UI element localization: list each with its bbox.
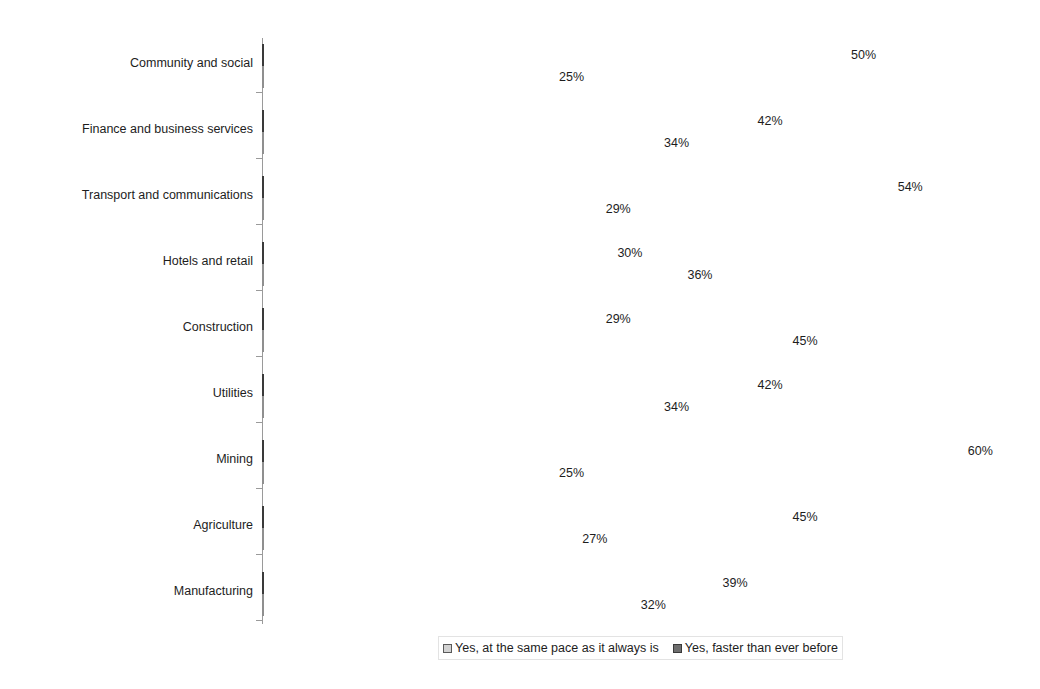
bar-value-label: 42% [758,377,783,393]
bar-value-label: 29% [606,201,631,217]
category-label: Mining [0,452,253,467]
category-label: Agriculture [0,518,253,533]
bar-rect [262,396,264,418]
bar-value-label: 25% [559,465,584,481]
bar-group: Community and social50%25% [0,44,1040,90]
bar-value-label: 27% [582,531,607,547]
bar-rect [262,594,264,616]
axis-tick [256,356,262,357]
category-label: Utilities [0,386,253,401]
bar-rect [262,242,264,264]
chart-legend: Yes, at the same pace as it always is Ye… [438,636,843,660]
bar-group: Construction29%45% [0,308,1040,354]
bar-light: 25% [262,462,554,484]
category-label: Finance and business services [0,122,253,137]
bar-group: Agriculture45%27% [0,506,1040,552]
legend-item-same-pace: Yes, at the same pace as it always is [443,640,659,656]
bar-rect [262,572,264,594]
bar-rect [262,528,264,550]
axis-tick [256,554,262,555]
bar-dark: 42% [262,374,753,396]
bar-dark: 54% [262,176,893,198]
category-label: Construction [0,320,253,335]
bar-value-label: 30% [617,245,642,261]
bar-rect [262,66,264,88]
bar-dark: 39% [262,572,718,594]
axis-tick [256,158,262,159]
bar-dark: 42% [262,110,753,132]
bar-rect [262,264,264,286]
bar-light: 36% [262,264,682,286]
bar-group: Manufacturing39%32% [0,572,1040,618]
bar-light: 29% [262,198,601,220]
bar-dark: 29% [262,308,601,330]
legend-swatch-dark-icon [673,644,682,653]
axis-tick [256,488,262,489]
bar-group: Finance and business services42%34% [0,110,1040,156]
bar-rect [262,462,264,484]
axis-tick [256,224,262,225]
bar-value-label: 42% [758,113,783,129]
bar-group: Mining60%25% [0,440,1040,486]
axis-tick [256,620,262,621]
category-label: Transport and communications [0,188,253,203]
bar-value-label: 36% [687,267,712,283]
bar-rect [262,440,264,462]
category-label: Community and social [0,56,253,71]
axis-tick [256,290,262,291]
bar-rect [262,330,264,352]
bar-value-label: 34% [664,399,689,415]
bar-light: 34% [262,396,659,418]
bar-light: 45% [262,330,788,352]
bar-value-label: 60% [968,443,993,459]
bar-rect [262,110,264,132]
bar-dark: 60% [262,440,963,462]
legend-swatch-light-icon [443,644,452,653]
bar-rect [262,132,264,154]
bar-value-label: 25% [559,69,584,85]
bar-dark: 45% [262,506,788,528]
bar-value-label: 50% [851,47,876,63]
bar-value-label: 45% [793,333,818,349]
bar-value-label: 32% [641,597,666,613]
bar-dark: 50% [262,44,846,66]
axis-tick [256,422,262,423]
bar-value-label: 39% [723,575,748,591]
bar-value-label: 54% [898,179,923,195]
legend-label-same-pace: Yes, at the same pace as it always is [455,640,659,656]
bar-rect [262,308,264,330]
bar-light: 27% [262,528,577,550]
bar-group: Hotels and retail30%36% [0,242,1040,288]
bar-value-label: 45% [793,509,818,525]
category-label: Manufacturing [0,584,253,599]
bar-rect [262,506,264,528]
bar-dark: 30% [262,242,612,264]
axis-tick [256,92,262,93]
bar-group: Transport and communications54%29% [0,176,1040,222]
bar-value-label: 34% [664,135,689,151]
category-label: Hotels and retail [0,254,253,269]
bar-light: 32% [262,594,636,616]
bar-rect [262,176,264,198]
bar-light: 34% [262,132,659,154]
bar-value-label: 29% [606,311,631,327]
legend-item-faster: Yes, faster than ever before [673,640,838,656]
plot-area: Community and social50%25%Finance and bu… [0,0,1040,640]
bar-rect [262,44,264,66]
bar-rect [262,198,264,220]
bar-group: Utilities42%34% [0,374,1040,420]
bar-rect [262,374,264,396]
horizontal-bar-chart: Community and social50%25%Finance and bu… [0,0,1040,689]
bar-light: 25% [262,66,554,88]
legend-label-faster: Yes, faster than ever before [685,640,838,656]
